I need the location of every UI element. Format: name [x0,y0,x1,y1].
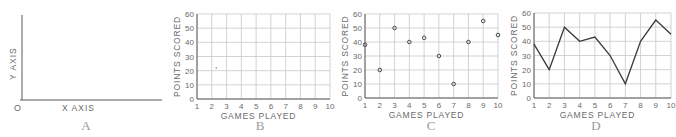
y-axis-label: POINTS SCORED [340,16,350,97]
y-axis-label: Y AXIS [8,47,18,80]
panel-caption: D [576,118,616,134]
axes-diagram: O X AXIS Y AXIS [0,0,170,137]
line-chart: 123456789100102030405060GAMES PLAYED POI… [506,0,676,137]
x-tick-label: 8 [638,101,643,110]
panel-b: 123456789100102030405060GAMES PLAYED POI… [170,0,340,137]
y-tick-label: 10 [522,80,531,89]
y-tick-label: 10 [185,81,194,90]
y-tick-label: 40 [522,37,531,46]
y-tick-label: 20 [353,66,362,75]
x-tick-label: 10 [326,102,335,111]
y-tick-label: 60 [353,10,362,19]
x-tick-label: 10 [667,101,676,110]
x-tick-label: 5 [422,101,427,110]
x-tick-label: 8 [298,102,303,111]
x-tick-label: 9 [654,101,659,110]
y-tick-label: 0 [358,94,363,103]
x-tick-label: 6 [608,101,613,110]
y-tick-label: 0 [527,94,532,103]
x-tick-label: 2 [378,101,383,110]
panel-c: 123456789100102030405060GAMES PLAYED POI… [340,0,510,137]
x-tick-label: 10 [494,101,503,110]
x-tick-label: 4 [407,101,412,110]
x-tick-label: 7 [451,101,456,110]
panel-caption: C [411,118,451,134]
panel-caption: B [240,118,280,134]
y-tick-label: 30 [522,52,531,61]
y-tick-label: 10 [353,80,362,89]
x-tick-label: 6 [269,102,274,111]
x-tick-label: 7 [283,102,288,111]
y-tick-label: 50 [185,24,194,33]
panel-d: 123456789100102030405060GAMES PLAYED POI… [506,0,676,137]
x-tick-label: 3 [562,101,567,110]
origin-label: O [14,103,21,113]
panel-caption: A [66,118,106,134]
y-tick-label: 30 [353,52,362,61]
y-tick-label: 50 [522,23,531,32]
y-tick-label: 0 [190,95,195,104]
y-tick-label: 60 [522,9,531,18]
y-tick-label: 50 [353,24,362,33]
x-tick-label: 9 [481,101,486,110]
x-tick-label: 4 [239,102,244,111]
x-tick-label: 3 [224,102,229,111]
panel-a: O X AXIS Y AXIS A [0,0,170,137]
y-tick-label: 60 [185,10,194,19]
y-axis-label: POINTS SCORED [509,15,519,96]
x-tick-label: 8 [466,101,471,110]
x-tick-label: 2 [210,102,215,111]
x-tick-label: 7 [623,101,628,110]
y-axis-label: POINTS SCORED [172,16,182,97]
x-tick-label: 5 [254,102,259,111]
data-point [215,67,217,69]
y-tick-label: 20 [522,66,531,75]
data-line [534,20,671,84]
x-tick-label: 2 [547,101,552,110]
y-tick-label: 40 [185,38,194,47]
empty-grid-chart: 123456789100102030405060GAMES PLAYED POI… [170,0,340,137]
y-tick-label: 40 [353,38,362,47]
y-tick-label: 30 [185,53,194,62]
x-tick-label: 4 [577,101,582,110]
y-tick-label: 20 [185,67,194,76]
x-tick-label: 1 [195,102,200,111]
x-tick-label: 5 [593,101,598,110]
x-tick-label: 1 [363,101,368,110]
x-tick-label: 9 [313,102,318,111]
x-tick-label: 1 [532,101,537,110]
x-axis-label: X AXIS [62,103,95,113]
x-tick-label: 3 [392,101,397,110]
x-tick-label: 6 [437,101,442,110]
scatter-chart: 123456789100102030405060GAMES PLAYED POI… [340,0,510,137]
